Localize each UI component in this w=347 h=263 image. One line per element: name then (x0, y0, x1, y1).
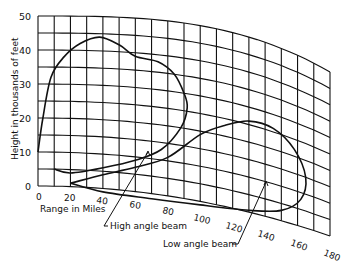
x-tick-60: 60 (129, 199, 142, 211)
y-tick-20: 20 (19, 113, 31, 124)
y-tick-10: 10 (19, 147, 31, 158)
x-tick-80: 80 (162, 205, 176, 217)
x-tick-140: 140 (256, 228, 276, 243)
y-tick-50: 50 (19, 11, 31, 22)
x-tick-100: 100 (193, 212, 212, 226)
y-tick-0: 0 (25, 181, 31, 192)
x-tick-160: 160 (289, 237, 309, 252)
low-beam-label: Low angle beam (163, 239, 237, 249)
x-tick-180: 180 (322, 248, 342, 263)
y-tick-30: 30 (19, 79, 31, 90)
x-axis-title: Range in Miles (40, 204, 106, 214)
x-tick-0: 0 (36, 192, 42, 202)
y-tick-40: 40 (19, 45, 31, 56)
y-axis-title: Height in thousands of feet (10, 37, 20, 160)
beam-curves (38, 37, 306, 211)
x-tick-120: 120 (224, 220, 244, 234)
range-height-chart: 0 10 20 30 40 50 Height in thousands of … (0, 0, 347, 263)
high-beam-label: High angle beam (110, 221, 187, 231)
x-tick-20: 20 (64, 193, 76, 203)
